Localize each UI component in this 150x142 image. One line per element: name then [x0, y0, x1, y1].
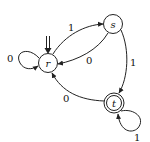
- state-s-label: s: [110, 19, 115, 30]
- edge-r-r-label: 0: [7, 53, 13, 64]
- edge-s-r-label: 0: [86, 55, 92, 66]
- state-t: t: [104, 93, 124, 113]
- edge-r-s: [53, 24, 103, 54]
- edge-s-t-label: 1: [130, 57, 136, 68]
- state-s: s: [104, 15, 123, 34]
- edge-t-r-label: 0: [63, 93, 69, 104]
- edge-t-t-label: 1: [134, 132, 140, 142]
- state-r: r: [39, 54, 58, 73]
- edge-t-r: [52, 73, 104, 101]
- edge-r-r: [19, 51, 39, 68]
- edge-s-r: [58, 33, 108, 64]
- edge-t-t: [118, 110, 141, 131]
- automaton-diagram: 0 1 0 1 0 1 r s t: [0, 0, 150, 142]
- edge-r-s-label: 1: [68, 22, 74, 33]
- start-arrow: [45, 36, 52, 54]
- edge-s-t: [119, 30, 127, 93]
